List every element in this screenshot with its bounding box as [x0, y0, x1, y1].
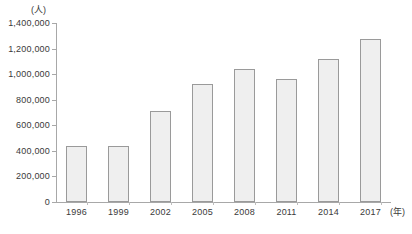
x-axis-tick: [339, 202, 340, 205]
y-axis-tick-label: 600,000: [0, 121, 50, 130]
y-axis-tick-label: 1,200,000: [0, 45, 50, 54]
bar-2011: [276, 79, 297, 202]
x-axis-line: [56, 202, 391, 203]
x-axis-unit-label: (年): [390, 207, 405, 218]
y-axis-tick-label: 400,000: [0, 147, 50, 156]
x-axis-label-2002: 2002: [137, 207, 185, 218]
x-axis-label-1996: 1996: [53, 207, 101, 218]
x-axis-tick: [171, 202, 172, 205]
y-axis-tick-label: 0: [0, 198, 50, 207]
y-axis-tick-label: 1,000,000: [0, 70, 50, 79]
x-axis-label-2005: 2005: [179, 207, 227, 218]
y-axis-tick-label: 800,000: [0, 96, 50, 105]
bar-1996: [66, 146, 87, 202]
y-axis-unit-label: (人): [31, 5, 46, 15]
x-axis-tick: [129, 202, 130, 205]
x-axis-tick: [297, 202, 298, 205]
plot-area: [56, 23, 390, 202]
bar-2014: [318, 59, 339, 202]
x-axis-label-1999: 1999: [95, 207, 143, 218]
x-axis-tick: [87, 202, 88, 205]
x-axis-label-2014: 2014: [305, 207, 353, 218]
x-axis-label-2008: 2008: [221, 207, 269, 218]
bar-2005: [192, 84, 213, 202]
x-axis-label-2011: 2011: [263, 207, 311, 218]
y-axis-tick-label: 200,000: [0, 172, 50, 181]
bar-1999: [108, 146, 129, 202]
bar-chart: (人) 1,400,000 1,200,000 1,000,000 800,00…: [0, 0, 412, 234]
x-axis-tick: [381, 202, 382, 205]
y-axis-tick: [52, 202, 57, 203]
x-axis-tick: [213, 202, 214, 205]
x-axis-label-2017: 2017: [347, 207, 395, 218]
x-axis-tick: [255, 202, 256, 205]
y-axis-tick-label: 1,400,000: [0, 19, 50, 28]
bar-2008: [234, 69, 255, 202]
bar-2002: [150, 111, 171, 202]
bar-2017: [360, 39, 381, 202]
